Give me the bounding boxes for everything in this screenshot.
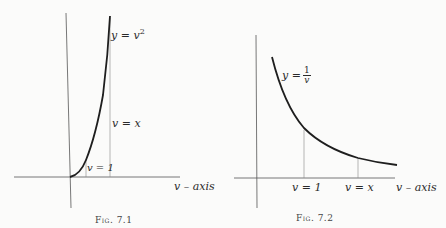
fig-7-1-graphic <box>14 13 180 208</box>
fig1-caption: Fig. 7.1 <box>95 215 132 225</box>
fig2-axis-label: v – axis <box>396 182 437 193</box>
fig2-y-axis <box>256 35 257 208</box>
figures-canvas <box>0 0 446 228</box>
fig2-line-label-v1: v = 1 <box>292 182 321 193</box>
fig1-line-label-vx: v = x <box>112 118 141 129</box>
fig2-curve-label: y =1v <box>282 66 311 85</box>
fig1-curve-label: y = v2 <box>111 28 145 41</box>
fig2-line-label-vx: v = x <box>345 182 374 193</box>
fig1-line-label-v1: v = 1 <box>87 163 114 173</box>
fig1-curve-y-v2 <box>70 16 110 177</box>
fig2-caption: Fig. 7.2 <box>296 213 333 223</box>
fig1-y-axis <box>66 13 71 208</box>
fig1-axis-label: v – axis <box>174 181 215 192</box>
